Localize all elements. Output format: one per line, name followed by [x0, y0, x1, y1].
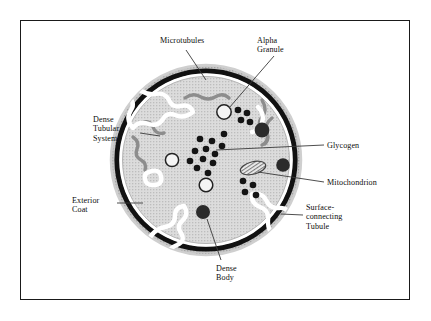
glycogen-particle — [192, 148, 199, 155]
label-mitochondrion: Mitochondrion — [327, 178, 377, 187]
platelet-cell — [111, 65, 301, 259]
glycogen-particle — [253, 192, 260, 199]
label-glycogen: Glycogen — [327, 141, 359, 150]
label-surface-connecting-tubule: Surface- connecting Tubule — [306, 203, 343, 231]
glycogen-particle — [197, 136, 204, 143]
glycogen-particle — [205, 170, 212, 177]
alpha-granule — [199, 178, 213, 192]
glycogen-particle — [187, 158, 194, 165]
label-dense-body: Dense Body — [216, 264, 237, 283]
glycogen-particle — [238, 117, 245, 124]
label-dense-tubular-system: Dense Tubular System — [93, 115, 119, 143]
glycogen-particle — [240, 178, 247, 185]
glycogen-particle — [210, 160, 217, 167]
dense-body — [276, 158, 290, 172]
glycogen-particle — [244, 110, 251, 117]
glycogen-particle — [209, 138, 216, 145]
glycogen-particle — [221, 131, 228, 138]
glycogen-particle — [200, 156, 207, 163]
alpha-granule — [165, 153, 178, 166]
glycogen-particle — [203, 146, 210, 153]
alpha-granule — [217, 105, 231, 119]
dense-body — [196, 205, 210, 219]
glycogen-particle — [242, 189, 249, 196]
label-alpha-granule: Alpha Granule — [257, 36, 284, 55]
figure-page: Microtubules Alpha Granule Dense Tubular… — [0, 0, 431, 321]
glycogen-particle — [194, 165, 201, 172]
label-microtubules: Microtubules — [160, 36, 204, 45]
glycogen-particle — [235, 107, 242, 114]
label-exterior-coat: Exterior Coat — [72, 196, 99, 215]
glycogen-particle — [250, 182, 257, 189]
glycogen-particle — [247, 119, 254, 126]
dense-body — [255, 123, 270, 138]
glycogen-particle — [219, 143, 226, 150]
glycogen-particle — [212, 151, 219, 158]
